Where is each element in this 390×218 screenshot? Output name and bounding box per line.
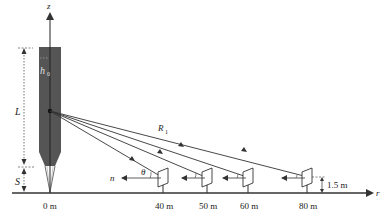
position-label-50m: 50 m: [199, 201, 217, 211]
r-axis-label: r: [376, 188, 380, 198]
rays: [50, 111, 304, 176]
l-dimension: L: [14, 48, 33, 165]
svg-text:h: h: [40, 65, 45, 76]
position-label-60m: 60 m: [240, 201, 258, 211]
origin-label: 0 m: [43, 201, 57, 211]
detector-60m: [223, 168, 253, 193]
s-dimension: S: [15, 167, 34, 192]
height-dimension: 1.5 m: [312, 177, 348, 193]
svg-text:1: 1: [165, 129, 168, 135]
r1-label: R 1: [157, 123, 168, 135]
position-label-80m: 80 m: [299, 201, 317, 211]
detector-40m: n θ: [110, 167, 168, 193]
normal-label: n: [110, 173, 115, 183]
detector-50m: [182, 168, 212, 193]
r-axis: r: [12, 188, 380, 198]
s-label: S: [15, 176, 20, 187]
height-label: 1.5 m: [327, 180, 348, 190]
svg-text:0: 0: [47, 71, 50, 77]
svg-text:R: R: [157, 123, 164, 133]
diagram: r z h 0 L S: [0, 0, 390, 218]
z-axis-label: z: [46, 1, 51, 11]
l-label: L: [14, 106, 21, 117]
position-label-40m: 40 m: [155, 201, 173, 211]
angle-label: θ: [141, 167, 146, 177]
